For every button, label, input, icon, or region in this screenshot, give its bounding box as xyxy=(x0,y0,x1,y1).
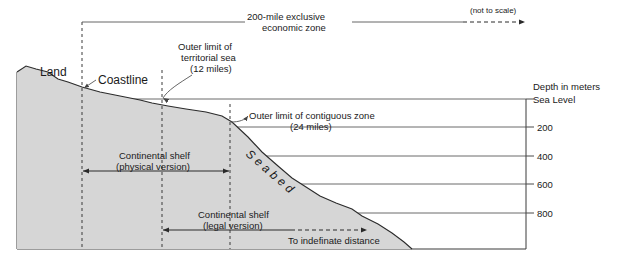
shelf-legal-label-line1: Continental shelf xyxy=(198,209,269,220)
depth-tick-200: 200 xyxy=(537,122,553,133)
depth-tick-600: 600 xyxy=(537,179,553,190)
shelf-physical-label-line1: Continental shelf xyxy=(119,150,190,161)
coastline-label: Coastline xyxy=(98,73,148,87)
land-label: Land xyxy=(40,65,67,79)
eez-label-line2: economic zone xyxy=(262,22,326,33)
contiguous-zone-label-line1: Outer limit of contiguous zone xyxy=(249,110,375,121)
coastline-callout xyxy=(84,80,96,88)
contiguous-zone-label-line2: (24 miles) xyxy=(290,121,332,132)
diagram-canvas: 200-mile exclusive economic zone (not to… xyxy=(0,0,634,263)
territorial-sea-callout xyxy=(163,75,192,98)
indefinite-distance-label: To indefinate distance xyxy=(288,235,380,246)
shelf-legal-label-line2: (legal version) xyxy=(203,220,263,231)
territorial-sea-label-line3: (12 miles) xyxy=(190,63,232,74)
depth-tick-800: 800 xyxy=(537,208,553,219)
not-to-scale-label: (not to scale) xyxy=(470,6,517,15)
eez-label-line1: 200-mile exclusive xyxy=(247,11,325,22)
territorial-sea-label-line1: Outer limit of xyxy=(178,41,232,52)
contiguous-zone-callout xyxy=(231,116,248,122)
depth-axis xyxy=(526,99,534,213)
depth-axis-title: Depth in meters xyxy=(533,81,600,92)
maritime-zones-diagram: 200-mile exclusive economic zone (not to… xyxy=(0,0,634,263)
depth-tick-400: 400 xyxy=(537,151,553,162)
shelf-physical-label-line2: (physical version) xyxy=(116,161,190,172)
territorial-sea-label-line2: territorial sea xyxy=(181,52,237,63)
depth-tick-sea-level: Sea Level xyxy=(533,94,575,105)
